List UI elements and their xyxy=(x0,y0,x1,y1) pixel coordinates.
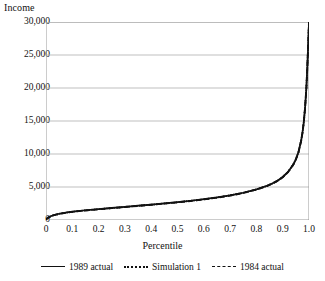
y-tick-label: 25,000 xyxy=(10,49,50,59)
y-axis-label: Income xyxy=(4,2,35,13)
legend-item: Simulation 1 xyxy=(124,262,201,272)
chart-legend: 1989 actualSimulation 11984 actual xyxy=(0,262,325,272)
y-tick-label: 20,000 xyxy=(10,82,50,92)
y-tick-label: 0 xyxy=(10,214,50,224)
y-tick-label: 30,000 xyxy=(10,16,50,26)
legend-line-swatch xyxy=(212,263,236,271)
legend-line-swatch xyxy=(41,263,65,271)
plot-area xyxy=(46,22,309,220)
legend-label: 1984 actual xyxy=(240,262,284,272)
y-tick-label: 15,000 xyxy=(10,115,50,125)
chart-figure: Income 05,00010,00015,00020,00025,00030,… xyxy=(0,0,325,281)
y-tick-label: 10,000 xyxy=(10,148,50,158)
legend-item: 1984 actual xyxy=(212,262,284,272)
legend-item: 1989 actual xyxy=(41,262,113,272)
legend-label: Simulation 1 xyxy=(152,262,201,272)
x-tick-label: 1.0 xyxy=(294,224,324,234)
y-tick-label: 5,000 xyxy=(10,181,50,191)
x-axis-label: Percentile xyxy=(0,240,325,251)
legend-label: 1989 actual xyxy=(69,262,113,272)
legend-line-swatch xyxy=(124,263,148,271)
